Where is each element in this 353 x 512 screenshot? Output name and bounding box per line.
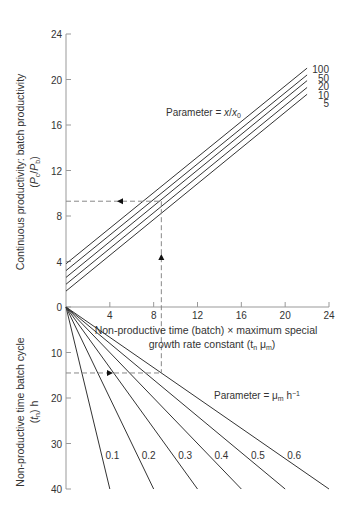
upper-series-line-100 [66,68,307,264]
lower-series-label: 0.5 [251,450,265,461]
x-tick-label: 4 [107,310,113,321]
series-labels: 10050201050.10.20.30.40.50.6 [105,64,329,461]
upper-y-tick-label: 20 [51,75,63,86]
x-tick-label: 8 [151,310,157,321]
upper-y-tick-label: 8 [56,211,62,222]
lower-series-label: 0.1 [105,450,119,461]
chart: 04812162024102030404812162024 1005020105… [0,0,353,512]
upper-series-line-5 [66,94,307,291]
x-axis-label-line1: Non-productive time (batch) × maximum sp… [95,324,318,336]
upper-series-label: 5 [323,98,329,109]
upper-y-axis-label-sub: (Pc/Pb) [28,156,41,187]
upper-y-axis-label: Continuous productivity: batch productiv… [14,73,26,270]
lower-series-label: 0.6 [287,450,301,461]
lower-y-tick-label: 40 [51,484,63,495]
lower-y-axis-label-sub: (tn) h [28,401,41,424]
x-tick-label: 20 [280,310,292,321]
x-tick-label: 16 [236,310,248,321]
x-axis-label-line2: growth rate constant (tn μm) [149,338,276,351]
upper-y-tick-label: 24 [51,29,63,40]
upper-y-tick-label: 16 [51,120,63,131]
upper-y-tick-label: 0 [56,302,62,313]
upper-parameter-annotation: Parameter = x/x0 [166,107,241,119]
lower-y-axis-label: Non-productive time batch cycle [14,337,26,487]
lower-series-label: 0.4 [215,450,229,461]
lower-y-tick-label: 20 [51,393,63,404]
upper-y-tick-label: 4 [56,257,62,268]
arrow-up-icon [158,254,164,260]
lower-y-tick-label: 30 [51,439,63,450]
lower-parameter-annotation: Parameter = μm h−1 [214,390,300,402]
x-tick-label: 24 [323,310,335,321]
lower-y-tick-label: 10 [51,348,63,359]
x-tick-label: 12 [192,310,204,321]
upper-series-line-50 [66,75,307,271]
lower-series-label: 0.3 [178,450,192,461]
upper-y-tick-label: 12 [51,166,63,177]
lower-series-label: 0.2 [142,450,156,461]
arrow-left-icon [117,198,123,204]
upper-series-lines [66,68,307,291]
